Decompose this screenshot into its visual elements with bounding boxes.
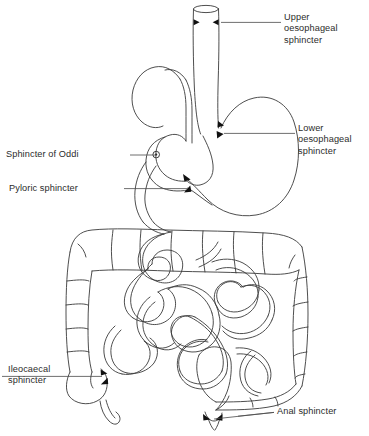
oesophagus-structure <box>193 5 219 134</box>
leader-anal-b <box>238 412 274 416</box>
label-ileocaecal-sphincter: Ileocaecal sphincter <box>8 364 50 387</box>
sphincter-markers <box>101 19 224 421</box>
label-upper-oesophageal-sphincter: Upper oesophageal sphincter <box>284 12 338 46</box>
figure-canvas: Upper oesophageal sphincter Lower oesoph… <box>0 0 369 436</box>
gi-tract-diagram <box>0 0 369 436</box>
large-intestine-structure <box>66 229 308 430</box>
upper-oesophageal-sphincter-marker <box>194 19 219 25</box>
label-pyloric-sphincter: Pyloric sphincter <box>9 183 78 194</box>
label-lower-oesophageal-sphincter: Lower oesophageal sphincter <box>298 123 352 157</box>
small-intestine-coils <box>104 232 275 396</box>
label-sphincter-of-oddi: Sphincter of Oddi <box>6 149 79 160</box>
label-anal-sphincter: Anal sphincter <box>277 406 337 417</box>
stomach-structure <box>188 97 299 216</box>
ileocaecal-sphincter-marker <box>101 369 109 384</box>
duodenum-structure <box>132 67 192 234</box>
